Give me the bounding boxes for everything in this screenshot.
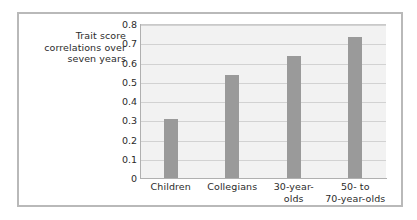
y-tick-label: 0.8 — [118, 19, 137, 30]
y-axis-caption-line-2: correlations over — [20, 42, 126, 54]
x-tick-label-line: Children — [140, 181, 202, 193]
x-tick-label-line: 50- to — [325, 181, 387, 193]
x-tick-label: 30-year-olds — [263, 181, 325, 204]
y-tick-label: 0.7 — [118, 38, 137, 49]
y-tick-label: 0 — [118, 173, 137, 184]
x-tick-label-line: Collegians — [202, 181, 264, 193]
x-tick-label-line: 30-year- — [263, 181, 325, 193]
y-axis-tick-labels: 00.10.20.30.40.50.60.70.8 — [118, 24, 137, 178]
x-axis-tick-labels: ChildrenCollegians30-year-olds50- to70-y… — [140, 181, 386, 211]
y-tick-label: 0.3 — [118, 115, 137, 126]
y-tick-label: 0.2 — [118, 134, 137, 145]
figure-container: Trait score correlations over seven year… — [0, 0, 417, 220]
gridline — [140, 25, 386, 26]
bar — [164, 119, 178, 179]
y-tick-label: 0.5 — [118, 76, 137, 87]
bar — [225, 75, 239, 179]
x-tick-label: Collegians — [202, 181, 264, 193]
y-tick-label: 0.4 — [118, 96, 137, 107]
y-axis-caption: Trait score correlations over seven year… — [20, 30, 126, 65]
x-tick-label-line: 70-year-olds — [325, 193, 387, 205]
y-axis-line — [140, 24, 141, 179]
y-axis-caption-line-3: seven years — [20, 53, 126, 65]
x-tick-label-line: olds — [263, 193, 325, 205]
plot-area — [140, 24, 386, 179]
bar — [287, 56, 301, 179]
y-tick-label: 0.6 — [118, 57, 137, 68]
y-axis-caption-line-1: Trait score — [20, 30, 126, 42]
x-tick-label: Children — [140, 181, 202, 193]
x-axis-line — [140, 178, 387, 179]
x-tick-label: 50- to70-year-olds — [325, 181, 387, 204]
y-tick-label: 0.1 — [118, 153, 137, 164]
bar — [348, 37, 362, 179]
